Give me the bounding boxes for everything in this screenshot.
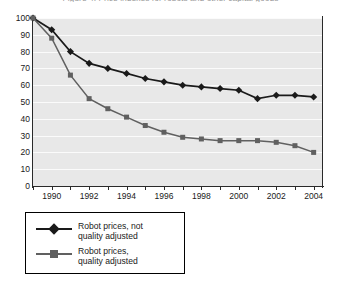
x-axis-tick-label: 1998 bbox=[192, 191, 211, 201]
data-point-marker bbox=[291, 92, 298, 99]
x-axis-tick-label: 1990 bbox=[42, 191, 61, 201]
series-line bbox=[33, 18, 314, 99]
data-point-marker bbox=[311, 150, 316, 155]
data-point-marker bbox=[161, 130, 166, 135]
data-point-marker bbox=[198, 83, 205, 90]
legend-entry: Robot prices, not quality adjusted bbox=[34, 221, 143, 241]
x-axis-tick bbox=[70, 186, 71, 190]
data-point-marker bbox=[160, 78, 167, 85]
series-canvas bbox=[0, 0, 341, 205]
data-point-marker bbox=[218, 138, 223, 143]
data-point-marker bbox=[254, 95, 261, 102]
data-point-marker bbox=[235, 87, 242, 94]
x-axis-tick bbox=[52, 186, 53, 190]
legend-marker-sample bbox=[34, 223, 74, 234]
x-axis-tick-label: 1994 bbox=[117, 191, 136, 201]
legend-marker-sample bbox=[34, 248, 74, 259]
x-axis-tick bbox=[183, 186, 184, 190]
data-series bbox=[31, 16, 317, 155]
x-axis-tick bbox=[164, 186, 165, 190]
data-point-marker bbox=[180, 135, 185, 140]
data-point-marker bbox=[217, 85, 224, 92]
x-axis-tick-label: 2000 bbox=[229, 191, 248, 201]
series-line bbox=[33, 18, 314, 152]
data-point-marker bbox=[199, 136, 204, 141]
legend-label: Robot prices, not quality adjusted bbox=[78, 221, 143, 241]
legend-entry: Robot prices, quality adjusted bbox=[34, 246, 138, 266]
chart-figure: Figure 4. Price indexes for robots and o… bbox=[0, 0, 341, 292]
x-axis-tick bbox=[276, 186, 277, 190]
data-point-marker bbox=[274, 140, 279, 145]
x-axis-tick-label: 2004 bbox=[304, 191, 323, 201]
x-axis-tick bbox=[295, 186, 296, 190]
data-point-marker bbox=[142, 75, 149, 82]
data-series bbox=[29, 14, 317, 102]
data-point-marker bbox=[292, 143, 297, 148]
data-point-marker bbox=[255, 138, 260, 143]
data-point-marker bbox=[87, 96, 92, 101]
legend-label: Robot prices, quality adjusted bbox=[78, 246, 138, 266]
x-axis-tick bbox=[127, 186, 128, 190]
x-axis-tick bbox=[314, 186, 315, 190]
x-axis-tick bbox=[89, 186, 90, 190]
x-axis-tick bbox=[108, 186, 109, 190]
x-axis-tick bbox=[33, 186, 34, 190]
x-axis-tick-label: 2002 bbox=[267, 191, 286, 201]
x-axis-tick bbox=[201, 186, 202, 190]
data-point-marker bbox=[179, 82, 186, 89]
chart-legend: Robot prices, not quality adjustedRobot … bbox=[25, 212, 185, 274]
x-axis-tick-label: 1996 bbox=[154, 191, 173, 201]
data-point-marker bbox=[68, 73, 73, 78]
data-point-marker bbox=[123, 70, 130, 77]
x-axis-tick bbox=[239, 186, 240, 190]
data-point-marker bbox=[310, 93, 317, 100]
x-axis-tick bbox=[258, 186, 259, 190]
x-axis-tick bbox=[220, 186, 221, 190]
data-point-marker bbox=[31, 16, 36, 21]
data-point-marker bbox=[105, 106, 110, 111]
data-point-marker bbox=[236, 138, 241, 143]
square-marker-icon bbox=[50, 250, 58, 258]
data-point-marker bbox=[273, 92, 280, 99]
x-axis-tick-label: 1992 bbox=[80, 191, 99, 201]
data-point-marker bbox=[143, 123, 148, 128]
data-point-marker bbox=[49, 36, 54, 41]
data-point-marker bbox=[104, 65, 111, 72]
plot-container: 1009080706050403020100 19901992199419961… bbox=[0, 0, 341, 205]
data-point-marker bbox=[124, 115, 129, 120]
diamond-marker-icon bbox=[48, 223, 59, 234]
x-axis-tick bbox=[145, 186, 146, 190]
